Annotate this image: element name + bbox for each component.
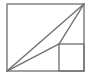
inner-square bbox=[59, 44, 84, 71]
inner-to-top-right bbox=[59, 4, 84, 44]
main-diagonal bbox=[7, 4, 84, 71]
geometric-diagram bbox=[0, 0, 89, 75]
